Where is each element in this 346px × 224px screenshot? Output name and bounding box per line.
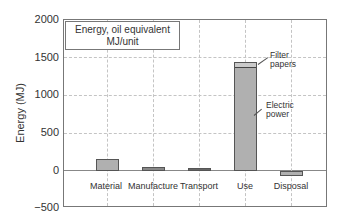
bar-manufacture — [142, 167, 165, 171]
x-label-disposal: Disposal — [274, 181, 309, 191]
x-label-manufacture: Manufacture — [128, 181, 178, 191]
annotation-electric-power: Electric power — [266, 101, 294, 119]
bar-material — [96, 159, 119, 171]
bar-use — [234, 62, 257, 171]
y-tick-1000: 1000 — [9, 88, 59, 100]
x-label-transport: Transport — [180, 181, 218, 191]
y-tick-minus-500: −500 — [9, 201, 59, 213]
chart-title-line-1: Energy, oil equivalent — [66, 24, 179, 36]
gridline-1000 — [64, 95, 326, 96]
gridline-500 — [64, 133, 326, 134]
y-tick-0: 0 — [9, 164, 59, 176]
x-label-material: Material — [90, 181, 122, 191]
y-tick-500: 500 — [9, 126, 59, 138]
chart-title-box: Energy, oil equivalent MJ/unit — [65, 21, 180, 50]
y-tick-2000: 2000 — [9, 13, 59, 25]
gridline-transport — [199, 20, 200, 206]
leader-filter-papers — [258, 57, 268, 65]
chart-title-line-2: MJ/unit — [66, 36, 179, 48]
annotation-filter-papers: Filter papers — [270, 51, 296, 69]
segment-electric-power — [235, 68, 256, 170]
bar-disposal — [280, 171, 303, 176]
x-label-use: Use — [237, 181, 253, 191]
y-tick-1500: 1500 — [9, 51, 59, 63]
bar-transport — [188, 168, 211, 171]
